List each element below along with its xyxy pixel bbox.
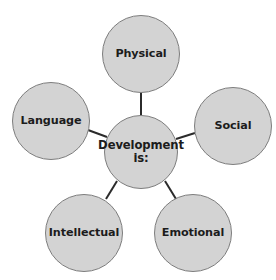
node-intellectual-label: Intellectual xyxy=(49,227,119,240)
connector-center-to-intellectual xyxy=(106,181,117,199)
node-emotional[interactable]: Emotional xyxy=(154,194,232,272)
node-center-label-line-2: is: xyxy=(133,151,148,165)
node-center-label-line-1: Development xyxy=(98,138,184,152)
connector-center-to-language xyxy=(88,130,107,137)
node-physical[interactable]: Physical xyxy=(102,15,180,93)
node-physical-label: Physical xyxy=(115,48,166,61)
node-social-label: Social xyxy=(215,120,252,133)
development-diagram: Physical Language Social Intellectual Em… xyxy=(0,0,276,280)
node-center-label: Development is: xyxy=(94,139,188,165)
node-language[interactable]: Language xyxy=(12,82,90,160)
node-center-development[interactable]: Development is: xyxy=(104,115,178,189)
node-language-label: Language xyxy=(21,115,82,128)
node-social[interactable]: Social xyxy=(194,87,272,165)
node-emotional-label: Emotional xyxy=(162,227,224,240)
node-intellectual[interactable]: Intellectual xyxy=(45,194,123,272)
connector-center-to-emotional xyxy=(165,181,176,199)
